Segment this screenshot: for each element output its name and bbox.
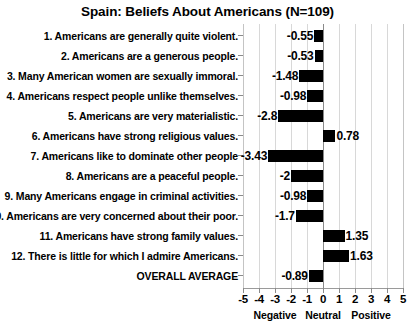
category-tick — [238, 175, 243, 176]
chart-row: OVERALL AVERAGE-0.89 — [0, 266, 415, 286]
bar-value-label: 0.78 — [336, 126, 359, 146]
axis-zone-label-positive: Positive — [326, 309, 415, 321]
bar-value-label: -0.53 — [287, 46, 313, 66]
category-label: 4. Americans respect people unlike thems… — [7, 86, 238, 106]
chart-row: 4. Americans respect people unlike thems… — [0, 86, 415, 106]
chart-title: Spain: Beliefs About Americans (N=109) — [0, 4, 415, 19]
bar-value-label: -1.7 — [275, 206, 295, 226]
category-tick — [238, 275, 243, 276]
category-tick — [238, 255, 243, 256]
bar — [299, 70, 323, 82]
category-label: 1. Americans are generally quite violent… — [44, 26, 238, 46]
bar-value-label: -0.55 — [287, 26, 313, 46]
chart-row: 11. Americans have strong family values.… — [0, 226, 415, 246]
category-label: 12. There is little for which I admire A… — [11, 246, 238, 266]
bar-value-label: 1.35 — [346, 226, 369, 246]
bar-value-label: -2.8 — [257, 106, 277, 126]
bar — [307, 90, 323, 102]
chart-container: Spain: Beliefs About Americans (N=109) -… — [0, 0, 415, 330]
bar — [291, 170, 323, 182]
bar-value-label: -1.48 — [272, 66, 298, 86]
category-tick — [238, 235, 243, 236]
bar-value-label: -0.89 — [281, 266, 307, 286]
chart-row: 5. Americans are very materialistic.-2.8 — [0, 106, 415, 126]
chart-row: 8. Americans are a peaceful people.-2 — [0, 166, 415, 186]
category-tick — [238, 115, 243, 116]
bar — [309, 270, 323, 282]
category-label: 11. Americans have strong family values. — [40, 226, 238, 246]
category-label: 5. Americans are very materialistic. — [68, 106, 238, 126]
category-tick — [238, 215, 243, 216]
category-tick — [238, 55, 243, 56]
bar-value-label: -0.98 — [280, 186, 306, 206]
category-tick — [238, 95, 243, 96]
bar — [278, 110, 323, 122]
chart-row: 10. Americans are very concerned about t… — [0, 206, 415, 226]
chart-row: 3. Many American women are sexually immo… — [0, 66, 415, 86]
category-label: OVERALL AVERAGE — [137, 266, 238, 286]
bar — [314, 30, 323, 42]
bar-value-label: -3.43 — [241, 146, 267, 166]
bar-value-label: -0.98 — [280, 86, 306, 106]
category-label: 8. Americans are a peaceful people. — [66, 166, 238, 186]
chart-row: 9. Many Americans engage in criminal act… — [0, 186, 415, 206]
category-label: 9. Many Americans engage in criminal act… — [5, 186, 238, 206]
x-axis-tick-label-5: 5 — [393, 293, 413, 305]
chart-row: 2. Americans are a generous people.-0.53 — [0, 46, 415, 66]
category-tick — [238, 75, 243, 76]
category-label: 6. Americans have strong religious value… — [32, 126, 238, 146]
chart-row: 7. Americans like to dominate other peop… — [0, 146, 415, 166]
bar — [307, 190, 323, 202]
bar — [323, 230, 345, 242]
category-label: 7. Americans like to dominate other peop… — [31, 146, 238, 166]
bar — [323, 130, 335, 142]
bar — [268, 150, 323, 162]
bar — [323, 250, 349, 262]
category-tick — [238, 195, 243, 196]
chart-row: 12. There is little for which I admire A… — [0, 246, 415, 266]
chart-row: 1. Americans are generally quite violent… — [0, 26, 415, 46]
category-label: 3. Many American women are sexually immo… — [7, 66, 238, 86]
category-label: 10. Americans are very concerned about t… — [0, 206, 238, 226]
bar — [296, 210, 323, 222]
bar-value-label: -2 — [280, 166, 290, 186]
chart-row: 6. Americans have strong religious value… — [0, 126, 415, 146]
category-tick — [238, 135, 243, 136]
category-tick — [238, 35, 243, 36]
bar-value-label: 1.63 — [350, 246, 373, 266]
category-label: 2. Americans are a generous people. — [61, 46, 238, 66]
bar — [315, 50, 323, 62]
